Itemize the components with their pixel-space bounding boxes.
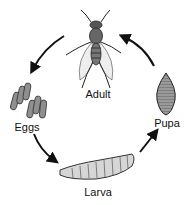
stage-label-larva: Larva xyxy=(80,186,116,198)
arrow-eggs-to-larva xyxy=(34,134,54,160)
stage-label-adult: Adult xyxy=(78,88,118,100)
arrow-larva-to-pupa xyxy=(140,133,155,152)
pupa-icon xyxy=(157,73,176,115)
stage-label-eggs: Eggs xyxy=(12,121,42,133)
larva-icon xyxy=(60,154,134,179)
life-cycle-diagram xyxy=(0,0,188,205)
arrow-adult-to-eggs xyxy=(33,36,64,69)
adult-fly-icon xyxy=(66,10,121,88)
eggs-icon xyxy=(10,83,47,119)
stage-label-pupa: Pupa xyxy=(150,117,184,129)
arrow-pupa-to-adult xyxy=(124,37,154,66)
